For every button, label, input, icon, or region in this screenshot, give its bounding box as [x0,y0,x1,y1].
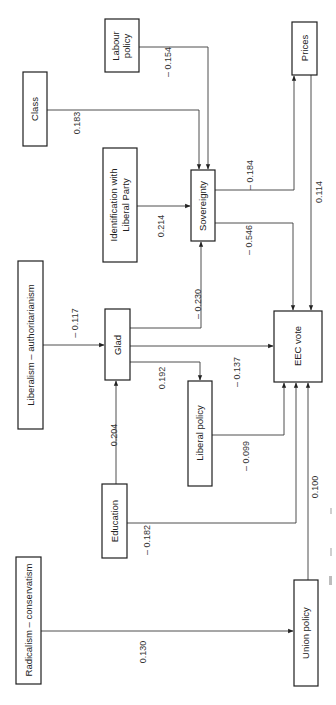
coef-prices-eec: 0.114 [314,181,324,203]
coef-education-eec: – 0.182 [142,525,152,555]
node-identification: Identification with Liberal Party [103,148,137,262]
node-education-label: Education [109,500,120,542]
node-sovereignty: Sovereignty [191,170,215,241]
coef-sovereignty-prices: – 0.184 [245,160,255,190]
coef-labour-sovereignty: – 0.154 [163,47,173,77]
node-liberal-policy-label: Liberal policy [194,405,205,461]
path-diagram: Labour policy Class Identification with … [0,0,336,705]
coef-education-glad: 0.204 [109,424,119,447]
caption-fragment [329,508,332,585]
node-liberal-policy: Liberal policy [188,381,212,486]
node-glad-label: Glad [112,335,123,355]
coef-union-eec: 0.100 [310,476,320,499]
edge-sovereignty-eec [215,223,293,310]
node-labour-policy: Labour policy [105,19,139,72]
node-sovereignty-label: Sovereignty [197,181,208,231]
node-eec-vote: EEC vote [274,311,322,382]
node-prices-label: Prices [299,35,310,62]
coef-identification-sovereignty: 0.214 [156,215,166,238]
node-libauth-label: Liberalism – authoritarianism [25,284,36,406]
coef-glad-eec: – 0.137 [232,357,242,387]
coef-radcons-union: 0.130 [138,641,148,664]
nodes: Labour policy Class Identification with … [16,19,322,686]
node-education: Education [102,484,127,558]
node-liberalism-authoritarianism: Liberalism – authoritarianism [18,261,43,429]
coef-glad-libpolicy: 0.192 [157,367,167,390]
edge-glad-sovereignty [130,242,201,328]
node-class-label: Class [29,97,40,121]
node-prices: Prices [292,22,317,75]
node-labour-policy-line2: policy [121,34,132,59]
coef-sovereignty-eec: – 0.546 [244,225,254,255]
node-radicalism-conservatism: Radicalism – conservatism [16,557,41,684]
coef-libpolicy-eec: – 0.099 [241,441,251,471]
edge-libpolicy-eec [212,383,284,435]
node-glad: Glad [105,309,130,380]
coef-glad-sovereignty: – 0.230 [193,289,203,319]
node-union-policy: Union policy [294,580,318,686]
node-identification-line2: Liberal Party [120,178,131,232]
node-radcons-label: Radicalism – conservatism [23,563,34,676]
node-union-policy-label: Union policy [300,607,311,659]
node-identification-line1: Identification with [108,169,119,242]
node-labour-policy-line1: Labour [110,31,121,61]
node-eec-vote-label: EEC vote [292,326,303,366]
coef-class-sovereignty: 0.183 [72,112,82,135]
coef-libauth-glad: – 0.117 [70,308,80,337]
edge-labour-sovereignty [139,47,208,169]
node-class: Class [23,72,47,146]
